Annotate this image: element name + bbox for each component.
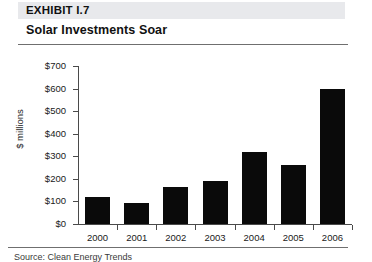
y-axis-tick-label-wrap: $400 bbox=[26, 129, 66, 139]
x-axis-end-tick bbox=[352, 225, 353, 230]
x-axis-tick-label: 2006 bbox=[309, 233, 355, 243]
y-axis-tick-label: $0 bbox=[26, 219, 66, 229]
y-axis-tick-label-wrap: $200 bbox=[26, 174, 66, 184]
y-axis-tick-label-wrap: $600 bbox=[26, 84, 66, 94]
x-axis-tick bbox=[117, 225, 118, 230]
y-axis-tick-label-wrap: $100 bbox=[26, 196, 66, 206]
footer-divider bbox=[8, 247, 348, 248]
bar bbox=[320, 89, 345, 224]
y-axis-tick-label-wrap: $500 bbox=[26, 106, 66, 116]
bar bbox=[163, 187, 188, 224]
bar bbox=[242, 152, 267, 224]
x-axis-tick bbox=[274, 225, 275, 230]
chart-title: Solar Investments Soar bbox=[26, 23, 167, 38]
x-axis-tick bbox=[235, 225, 236, 230]
x-axis-tick bbox=[156, 225, 157, 230]
y-axis-tick-label: $700 bbox=[26, 61, 66, 71]
x-axis-line bbox=[78, 224, 352, 225]
title-divider bbox=[18, 44, 348, 45]
y-axis-tick-label: $200 bbox=[26, 174, 66, 184]
bar bbox=[203, 181, 228, 224]
source-note: Source: Clean Energy Trends bbox=[14, 252, 132, 262]
bar bbox=[85, 197, 110, 224]
y-axis-tick-label: $500 bbox=[26, 106, 66, 116]
y-axis-title: $ millions bbox=[15, 94, 25, 164]
bar bbox=[281, 165, 306, 224]
y-axis-tick-label: $100 bbox=[26, 196, 66, 206]
y-axis-tick-label-wrap: $0 bbox=[26, 219, 66, 229]
plot-area bbox=[78, 66, 352, 224]
x-axis-tick bbox=[195, 225, 196, 230]
y-axis-tick bbox=[73, 224, 79, 225]
y-axis-tick-label-wrap: $300 bbox=[26, 151, 66, 161]
bar bbox=[124, 203, 149, 224]
y-axis-tick-label: $300 bbox=[26, 151, 66, 161]
y-axis-tick-label: $400 bbox=[26, 129, 66, 139]
x-axis-tick bbox=[313, 225, 314, 230]
y-axis-tick-label: $600 bbox=[26, 84, 66, 94]
exhibit-label: EXHIBIT I.7 bbox=[26, 4, 90, 17]
y-axis-tick-label-wrap: $700 bbox=[26, 61, 66, 71]
